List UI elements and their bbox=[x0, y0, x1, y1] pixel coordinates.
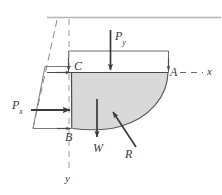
pressure-distribution-parallelogram bbox=[33, 67, 72, 129]
label-force-r: R bbox=[125, 148, 132, 160]
label-axis-x: x bbox=[207, 66, 212, 77]
label-force-px-sub: x bbox=[19, 107, 23, 116]
free-body-diagram-figure: C A B x y Px Py W R bbox=[0, 0, 222, 195]
label-force-py-sub: y bbox=[122, 38, 126, 47]
label-point-b: B bbox=[65, 131, 72, 143]
pressure-gradient-edge bbox=[33, 20, 57, 129]
label-force-py: Py bbox=[115, 30, 126, 45]
label-force-w: W bbox=[93, 142, 103, 154]
label-point-a: A bbox=[170, 66, 177, 78]
label-point-c: C bbox=[74, 60, 82, 72]
vertical-pressure-rectangle bbox=[69, 51, 169, 73]
label-force-px: Px bbox=[12, 99, 23, 114]
label-axis-y: y bbox=[65, 173, 70, 184]
diagram-canvas bbox=[0, 0, 222, 195]
